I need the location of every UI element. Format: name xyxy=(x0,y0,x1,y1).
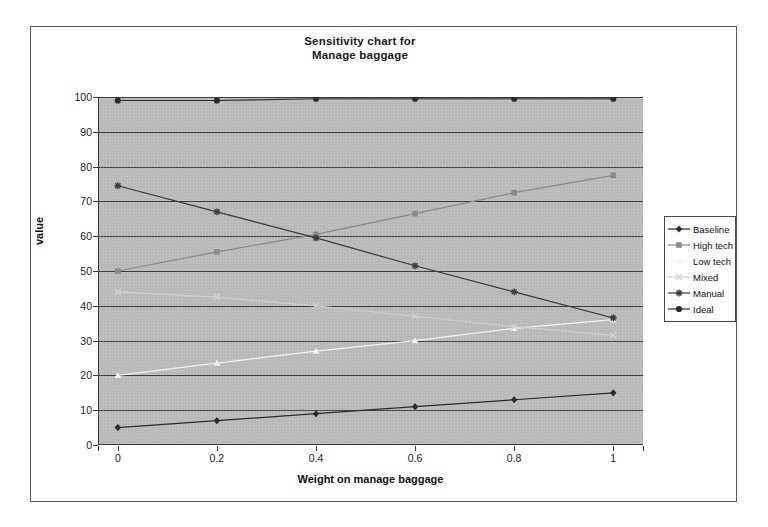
chart-title-line-1: Sensitivity chart for xyxy=(180,34,540,48)
legend-marker-triangle-icon xyxy=(667,254,691,268)
y-axis-tick-label: 50 xyxy=(54,265,92,277)
x-axis-tick-mark xyxy=(217,446,218,451)
legend-label: Baseline xyxy=(691,224,729,235)
legend-label: Mixed xyxy=(691,272,718,283)
series-low-tech xyxy=(114,316,616,378)
legend-item-manual[interactable]: Manual xyxy=(667,285,732,301)
legend-marker-square-icon xyxy=(667,238,691,252)
legend-item-high-tech[interactable]: High tech xyxy=(667,237,732,253)
y-axis-tick-label: 10 xyxy=(54,404,92,416)
series-mixed xyxy=(115,289,616,339)
y-axis-tick-label: 60 xyxy=(54,230,92,242)
legend-marker-cross-icon xyxy=(667,270,691,284)
x-axis-tick-mark xyxy=(316,446,317,451)
legend-item-low-tech[interactable]: Low tech xyxy=(667,253,732,269)
y-axis-tick-label: 80 xyxy=(54,161,92,173)
chart-screenshot: Sensitivity chart for Manage baggage val… xyxy=(0,0,768,527)
legend-item-ideal[interactable]: Ideal xyxy=(667,301,732,317)
legend-label: Ideal xyxy=(691,304,714,315)
x-axis-tick-mark xyxy=(514,446,515,451)
legend-marker-star-icon xyxy=(667,286,691,300)
x-axis-tick-mark xyxy=(415,446,416,451)
y-axis-tick-label: 0 xyxy=(54,439,92,451)
legend-label: Manual xyxy=(691,288,724,299)
x-axis-tick-label: 0.8 xyxy=(507,452,522,464)
legend-item-baseline[interactable]: Baseline xyxy=(667,221,732,237)
plot-area xyxy=(98,97,643,445)
x-axis-tick-mark xyxy=(118,446,119,451)
chart-title-line-2: Manage baggage xyxy=(180,48,540,62)
chart-title: Sensitivity chart for Manage baggage xyxy=(180,34,540,62)
x-axis-label: Weight on manage baggage xyxy=(98,473,643,485)
y-axis-tick-label: 70 xyxy=(54,195,92,207)
legend-label: Low tech xyxy=(691,256,731,267)
x-axis-tick-mark xyxy=(613,446,614,451)
legend-marker-diamond-icon xyxy=(667,222,691,236)
y-axis-tick-label: 30 xyxy=(54,335,92,347)
series-ideal xyxy=(115,97,617,104)
y-axis-label: value xyxy=(33,217,45,245)
x-axis-tick-label: 1 xyxy=(610,452,616,464)
y-axis-tick-label: 90 xyxy=(54,126,92,138)
series-baseline xyxy=(115,389,617,431)
y-axis-tick-label: 100 xyxy=(54,91,92,103)
x-axis-tick-label: 0.4 xyxy=(309,452,324,464)
x-axis-tick-label: 0 xyxy=(115,452,121,464)
x-axis-end-tick xyxy=(98,446,99,451)
legend-label: High tech xyxy=(691,240,733,251)
y-axis-tick-label: 20 xyxy=(54,369,92,381)
x-axis-tick-label: 0.2 xyxy=(210,452,225,464)
legend-marker-circle-icon xyxy=(667,302,691,316)
legend-item-mixed[interactable]: Mixed xyxy=(667,269,732,285)
series-manual xyxy=(114,182,616,321)
x-axis-end-tick xyxy=(643,446,644,451)
y-axis-tick-label: 40 xyxy=(54,300,92,312)
x-axis-tick-label: 0.6 xyxy=(408,452,423,464)
series-layer xyxy=(98,97,643,445)
chart-legend: BaselineHigh techLow techMixedManualIdea… xyxy=(664,216,736,322)
series-high-tech xyxy=(115,173,616,274)
